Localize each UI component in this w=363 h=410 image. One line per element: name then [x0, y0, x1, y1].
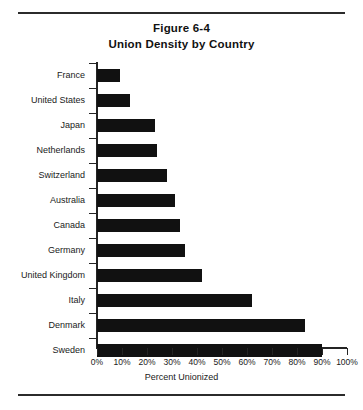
bar-chart-plot: Percent Unionized FranceUnited StatesJap…: [0, 0, 363, 410]
x-axis-tick: [297, 348, 298, 355]
y-axis-tick: [89, 188, 97, 189]
bar-italy: [97, 294, 252, 307]
bar-germany: [97, 244, 185, 257]
y-axis-tick: [89, 63, 97, 64]
bar-france: [97, 69, 120, 82]
bar-united-kingdom: [97, 269, 202, 282]
y-axis-tick: [89, 313, 97, 314]
y-axis-tick: [89, 288, 97, 289]
y-axis-label-united-kingdom: United Kingdom: [0, 270, 85, 281]
y-axis-tick: [89, 138, 97, 139]
y-axis-tick: [89, 338, 97, 339]
x-axis-tick: [122, 348, 123, 355]
bar-japan: [97, 119, 155, 132]
y-axis-tick: [89, 238, 97, 239]
y-axis-label-germany: Germany: [0, 245, 85, 256]
figure-container: Figure 6-4 Union Density by Country Perc…: [0, 0, 363, 410]
y-axis-label-france: France: [0, 70, 85, 81]
x-axis-tick: [97, 348, 98, 355]
bar-canada: [97, 219, 180, 232]
y-axis-label-netherlands: Netherlands: [0, 145, 85, 156]
bar-denmark: [97, 319, 305, 332]
x-axis-tick-label: 100%: [330, 357, 363, 367]
y-axis-tick: [89, 213, 97, 214]
bar-switzerland: [97, 169, 167, 182]
x-axis-tick: [322, 348, 323, 355]
bar-united-states: [97, 94, 130, 107]
x-axis-tick: [272, 348, 273, 355]
y-axis-tick: [89, 88, 97, 89]
x-axis-tick: [147, 348, 148, 355]
y-axis-label-australia: Australia: [0, 195, 85, 206]
bar-sweden: [97, 344, 322, 357]
x-axis-tick: [247, 348, 248, 355]
y-axis-label-switzerland: Switzerland: [0, 170, 85, 181]
x-axis-tick: [347, 348, 348, 355]
y-axis-tick: [89, 263, 97, 264]
y-axis-label-denmark: Denmark: [0, 320, 85, 331]
x-axis-tick: [222, 348, 223, 355]
y-axis-label-japan: Japan: [0, 120, 85, 131]
y-axis-tick: [89, 163, 97, 164]
x-axis-tick: [172, 348, 173, 355]
y-axis-label-united-states: United States: [0, 95, 85, 106]
y-axis-label-italy: Italy: [0, 295, 85, 306]
bar-australia: [97, 194, 175, 207]
y-axis-tick: [89, 113, 97, 114]
x-axis-tick: [197, 348, 198, 355]
bar-netherlands: [97, 144, 157, 157]
x-axis-title: Percent Unionized: [0, 372, 363, 382]
y-axis-label-sweden: Sweden: [0, 345, 85, 356]
y-axis-label-canada: Canada: [0, 220, 85, 231]
